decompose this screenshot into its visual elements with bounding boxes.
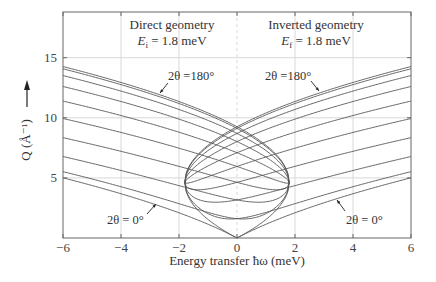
direct-geometry-label: Direct geometry Ei = 1.8 meV <box>130 17 215 50</box>
y-tick-label: 5 <box>51 170 58 185</box>
inverted-geometry-label: Inverted geometry Ef = 1.8 meV <box>268 17 364 50</box>
y-tick-label: 10 <box>44 110 57 125</box>
x-tick-label: 4 <box>350 240 357 255</box>
angle-annotation-label: 2θ =180° <box>168 69 214 83</box>
y-axis-arrow-icon <box>24 80 30 107</box>
y-tick-label: 15 <box>44 50 57 65</box>
angle-curve <box>185 101 411 182</box>
angle-curve <box>63 76 289 183</box>
angle-curve <box>185 76 411 183</box>
angle-curve <box>63 101 289 182</box>
angle-curve <box>63 157 289 203</box>
angle-annotation-label: 2θ =180° <box>265 69 311 83</box>
y-axis-title: Q (Å⁻¹) <box>18 119 33 160</box>
y-axis-title-group: Q (Å⁻¹) <box>18 119 33 160</box>
x-tick-label: −6 <box>56 240 70 255</box>
x-tick-label: 6 <box>408 240 415 255</box>
angle-annotation-label: 2θ = 0° <box>346 213 383 227</box>
grid-lines <box>63 12 411 238</box>
direct-geometry-title: Direct geometry <box>130 17 215 32</box>
inverted-geometry-energy: Ef = 1.8 meV <box>280 33 351 50</box>
x-axis-title: Energy transfer ħω (meV) <box>169 253 305 268</box>
q-vs-energy-transfer-chart: −6−4−2024651015 Direct geometry Ei = 1.8… <box>0 0 436 282</box>
angle-curve <box>185 157 411 203</box>
inverted-geometry-title: Inverted geometry <box>268 17 364 32</box>
direct-geometry-energy: Ei = 1.8 meV <box>136 33 207 50</box>
angle-annotation-label: 2θ = 0° <box>107 213 144 227</box>
x-tick-label: −4 <box>114 240 128 255</box>
